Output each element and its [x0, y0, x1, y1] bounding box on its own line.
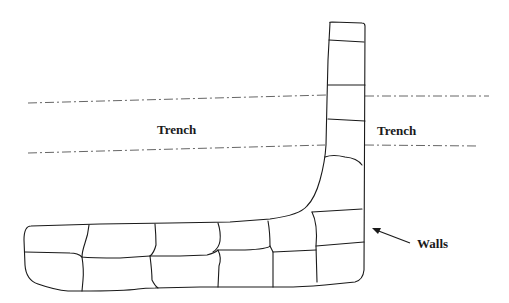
wall-trench-diagram — [0, 0, 509, 303]
trench-bottom-line-left — [28, 145, 325, 153]
arrow-shaft — [376, 230, 410, 243]
walls-arrow — [372, 228, 410, 243]
trench-boundary-lines — [28, 95, 489, 153]
trench-top-line-left — [28, 95, 327, 103]
trench-label-right: Trench — [377, 123, 416, 139]
trench-label-left: Trench — [157, 122, 196, 138]
trench-bottom-line-right — [365, 145, 479, 146]
wall-outline — [24, 22, 365, 291]
walls-label: Walls — [417, 236, 448, 252]
diagram-canvas: Trench Trench Walls — [0, 0, 509, 303]
